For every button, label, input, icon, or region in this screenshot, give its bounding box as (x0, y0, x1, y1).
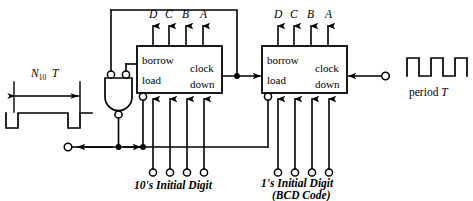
tens-output-wires (153, 26, 203, 46)
ones-pin-clock: clock (315, 62, 339, 74)
nand-input-wires (111, 10, 137, 71)
ones-output-label-c: C (290, 8, 298, 20)
tens-load-bubble (139, 93, 146, 100)
nand-gate-input-bubbles (107, 71, 129, 78)
tens-preset-wires (153, 99, 204, 170)
tens-pin-load: load (142, 74, 161, 86)
tens-preset-terminals (149, 169, 207, 176)
junction-dot-gate-out (116, 144, 122, 150)
tens-output-label-d: D (149, 8, 157, 20)
ones-pin-borrow: borrow (267, 54, 299, 66)
ones-output-wires (278, 26, 328, 46)
tens-pin-borrow: borrow (142, 54, 174, 66)
ones-bcd-code-caption: (BCD Code) (272, 189, 330, 201)
ones-initial-digit-caption: 1's Initial Digit (261, 177, 333, 189)
tens-output-label-b: B (182, 8, 189, 20)
start-terminal (64, 143, 72, 151)
nand-gate-output-bubble (115, 111, 122, 118)
ones-pin-down: down (315, 78, 339, 90)
tens-output-label-a: A (200, 8, 207, 20)
tens-output-label-c: C (165, 8, 173, 20)
ones-load-bubble (264, 93, 271, 100)
tens-initial-digit-caption: 10's Initial Digit (134, 179, 212, 191)
ones-output-label-a: A (325, 8, 332, 20)
junction-dot-tens-load (140, 144, 146, 150)
ones-output-label-d: D (274, 8, 282, 20)
ones-output-label-b: B (307, 8, 314, 20)
junction-dot-feedback (234, 73, 240, 79)
tens-pin-down: down (190, 78, 214, 90)
figure-root: N10 T D C B A D C B A borrow load clock … (0, 0, 473, 201)
clock-waveform (407, 58, 467, 76)
nand-gate-body (105, 78, 132, 111)
pulse-width-label: N10 T (31, 67, 58, 82)
pulse-width-dimension (14, 82, 80, 112)
ones-pin-load: load (267, 74, 286, 86)
ones-preset-wires (278, 99, 329, 170)
period-label: period T (409, 86, 448, 98)
ones-preset-terminals (274, 169, 332, 176)
tens-pin-clock: clock (190, 62, 214, 74)
left-output-waveform (6, 113, 92, 128)
circuit-diagram (0, 0, 473, 201)
clock-terminal (382, 72, 390, 80)
